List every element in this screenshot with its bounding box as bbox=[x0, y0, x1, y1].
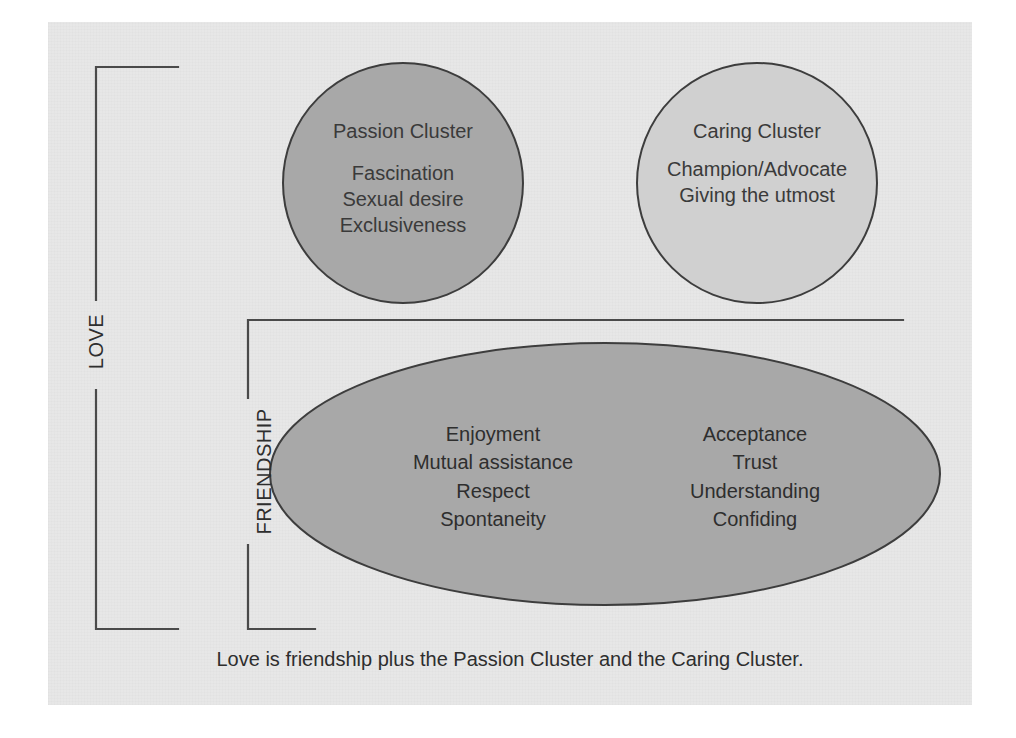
text-line: Understanding bbox=[640, 477, 870, 505]
passion-cluster-title: Passion Cluster bbox=[283, 118, 523, 144]
text-line: Sexual desire bbox=[283, 186, 523, 212]
text-line: Trust bbox=[640, 448, 870, 476]
text-line: Acceptance bbox=[640, 420, 870, 448]
text-line: Exclusiveness bbox=[283, 212, 523, 238]
caring-cluster-text: Caring Cluster Champion/AdvocateGiving t… bbox=[637, 118, 877, 208]
figure-caption: Love is friendship plus the Passion Clus… bbox=[48, 648, 972, 671]
friendship-bracket-label: FRIENDSHIP bbox=[253, 392, 276, 552]
passion-cluster-text: Passion Cluster FascinationSexual desire… bbox=[283, 118, 523, 238]
text-line: Respect bbox=[378, 477, 608, 505]
friendship-left-column: EnjoymentMutual assistanceRespectSpontan… bbox=[378, 420, 608, 534]
love-bracket-label: LOVE bbox=[85, 302, 108, 382]
text-line: Enjoyment bbox=[378, 420, 608, 448]
passion-cluster-items: FascinationSexual desireExclusiveness bbox=[283, 160, 523, 238]
text-line: Giving the utmost bbox=[637, 182, 877, 208]
love-bracket bbox=[96, 67, 178, 629]
text-line: Spontaneity bbox=[378, 505, 608, 533]
text-line: Champion/Advocate bbox=[637, 156, 877, 182]
figure-root: Passion Cluster FascinationSexual desire… bbox=[0, 0, 1016, 738]
text-line: Mutual assistance bbox=[378, 448, 608, 476]
figure-shapes bbox=[0, 0, 1016, 738]
text-line: Fascination bbox=[283, 160, 523, 186]
caring-cluster-title: Caring Cluster bbox=[637, 118, 877, 144]
caring-cluster-items: Champion/AdvocateGiving the utmost bbox=[637, 156, 877, 208]
text-line: Confiding bbox=[640, 505, 870, 533]
friendship-right-column: AcceptanceTrustUnderstandingConfiding bbox=[640, 420, 870, 534]
